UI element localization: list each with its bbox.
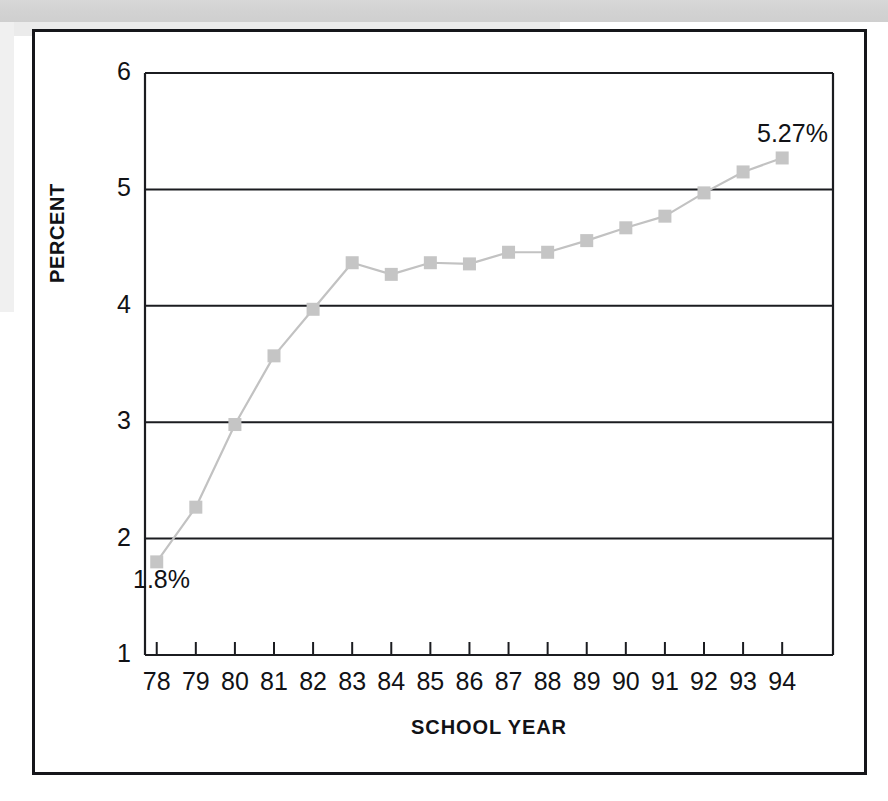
x-tick-label-94: 94 — [761, 667, 803, 696]
data-point-86 — [463, 257, 476, 270]
x-tick-label-90: 90 — [605, 667, 647, 696]
axis-lines — [145, 73, 833, 655]
series-polyline — [157, 158, 782, 562]
data-label-last-point: 5.27% — [757, 119, 828, 148]
x-axis-title: SCHOOL YEAR — [145, 716, 833, 739]
y-tick-label-6: 6 — [97, 57, 131, 86]
y-tick-label-4: 4 — [97, 290, 131, 319]
y-axis-title: PERCENT — [46, 133, 69, 283]
data-point-89 — [580, 234, 593, 247]
data-point-83 — [346, 256, 359, 269]
x-tick-label-82: 82 — [292, 667, 334, 696]
x-tick-label-78: 78 — [136, 667, 178, 696]
data-label-first-point: 1.8% — [133, 565, 190, 594]
y-tick-label-2: 2 — [97, 523, 131, 552]
x-axis-ticks — [157, 642, 782, 655]
data-point-93 — [737, 165, 750, 178]
x-tick-label-85: 85 — [409, 667, 451, 696]
x-tick-label-83: 83 — [331, 667, 373, 696]
y-tick-label-1: 1 — [97, 639, 131, 668]
x-tick-label-87: 87 — [488, 667, 530, 696]
x-tick-label-91: 91 — [644, 667, 686, 696]
data-point-82 — [307, 303, 320, 316]
x-tick-label-88: 88 — [527, 667, 569, 696]
data-point-87 — [502, 246, 515, 259]
x-tick-label-93: 93 — [722, 667, 764, 696]
x-tick-label-92: 92 — [683, 667, 725, 696]
gridlines — [145, 73, 833, 539]
data-point-79 — [189, 501, 202, 514]
y-tick-label-3: 3 — [97, 406, 131, 435]
data-point-92 — [698, 186, 711, 199]
x-tick-label-79: 79 — [175, 667, 217, 696]
x-tick-label-81: 81 — [253, 667, 295, 696]
data-point-90 — [619, 221, 632, 234]
series-line — [157, 158, 782, 562]
x-tick-label-84: 84 — [370, 667, 412, 696]
data-point-81 — [268, 349, 281, 362]
data-point-84 — [385, 268, 398, 281]
data-point-85 — [424, 256, 437, 269]
x-tick-label-80: 80 — [214, 667, 256, 696]
x-tick-label-89: 89 — [566, 667, 608, 696]
data-point-88 — [541, 246, 554, 259]
y-tick-label-5: 5 — [97, 173, 131, 202]
x-tick-label-86: 86 — [448, 667, 490, 696]
data-point-80 — [228, 418, 241, 431]
data-markers — [150, 151, 788, 568]
data-point-91 — [658, 210, 671, 223]
data-point-94 — [776, 151, 789, 164]
